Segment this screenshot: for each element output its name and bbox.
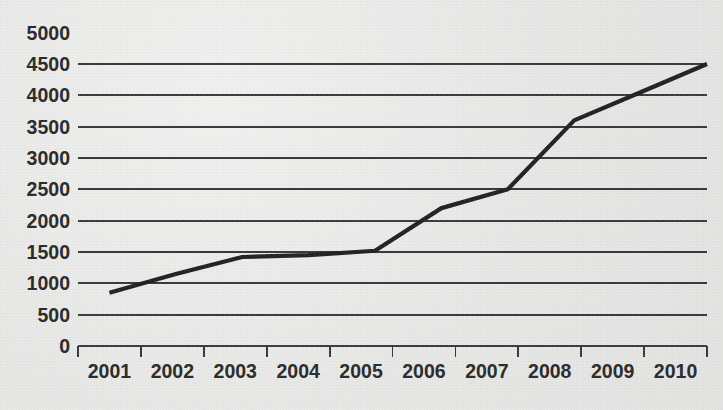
y-axis-tick-labels: 0500100015002000250030003500400045005000: [27, 22, 71, 357]
x-tick-label-2008: 2008: [528, 360, 572, 382]
x-tick-label-2002: 2002: [151, 360, 195, 382]
x-tick-label-2004: 2004: [276, 360, 320, 382]
y-tick-label-5000: 5000: [27, 22, 71, 44]
x-axis-tick-labels: 2001200220032004200520062007200820092010: [88, 360, 698, 382]
y-tick-label-3000: 3000: [27, 147, 71, 169]
y-tick-label-4500: 4500: [27, 53, 71, 75]
series-line-path: [109, 64, 707, 293]
x-tick-label-2001: 2001: [88, 360, 132, 382]
y-tick-label-2000: 2000: [27, 210, 71, 232]
line-chart: 0500100015002000250030003500400045005000…: [0, 0, 723, 410]
x-tick-label-2010: 2010: [654, 360, 698, 382]
y-tick-label-3500: 3500: [27, 116, 71, 138]
y-tick-label-2500: 2500: [27, 178, 71, 200]
x-tick-label-2003: 2003: [214, 360, 258, 382]
x-tick-label-2005: 2005: [339, 360, 383, 382]
x-axis-ticks-group: [78, 346, 707, 357]
y-tick-label-1500: 1500: [27, 241, 71, 263]
y-tick-label-1000: 1000: [27, 272, 71, 294]
x-tick-label-2007: 2007: [465, 360, 508, 382]
y-tick-label-4000: 4000: [27, 84, 71, 106]
x-tick-label-2009: 2009: [591, 360, 635, 382]
x-tick-label-2006: 2006: [402, 360, 446, 382]
chart-plot-area: 0500100015002000250030003500400045005000…: [0, 0, 723, 410]
y-tick-label-0: 0: [59, 335, 70, 357]
y-tick-label-500: 500: [37, 304, 70, 326]
